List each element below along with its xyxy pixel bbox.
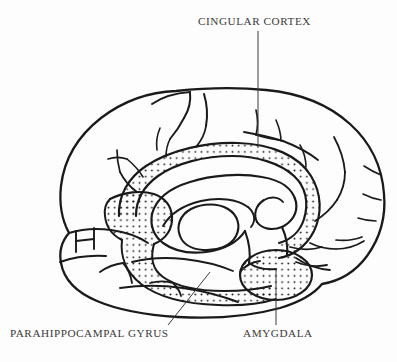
corpus-callosum-splenium-inner (257, 222, 282, 229)
temporal-sulcus-lower (60, 256, 106, 262)
sulcus-occipital-3 (358, 218, 376, 221)
fornix-arch (163, 199, 248, 226)
collateral-sulcus-2 (184, 259, 233, 271)
fold-under-splenium-1 (290, 247, 322, 249)
sulcus-marginal-1 (256, 110, 258, 135)
sulcus-sup-6 (204, 94, 207, 126)
thalamus-outline (178, 205, 238, 251)
corpus-callosum-splenium-outer (282, 202, 296, 227)
label-amygdala: AMYGDALA (243, 328, 313, 339)
sulcus-marginal-3 (244, 132, 283, 141)
sulcus-sup-3 (170, 118, 184, 139)
corpus-callosum-splenium-tip (264, 198, 283, 202)
sulcus-sup-7 (196, 126, 206, 147)
sulcus-sup-5 (157, 128, 160, 150)
sulcus-occipital-2 (363, 194, 381, 200)
corpus-callosum-superior (152, 175, 296, 214)
sulcus-sup-2 (184, 92, 190, 118)
sulcus-parietal-2 (337, 172, 345, 200)
sulcus-parietal-1 (334, 137, 345, 172)
sulcus-frontal-2 (117, 150, 120, 172)
figure-canvas: CINGULAR CORTEX PARAHIPPOCAMPAL GYRUS AM… (0, 0, 397, 362)
label-cingular-cortex: CINGULAR CORTEX (198, 16, 311, 27)
fornix-crus (248, 207, 254, 227)
temporal-mark-h-bar (76, 239, 94, 241)
sulcus-occipital-4 (336, 237, 362, 240)
sulcus-occipital-6 (336, 241, 364, 249)
temporal-mark-y-left (100, 263, 123, 272)
brain-diagram-svg (0, 0, 397, 362)
corpus-callosum-splenium-hook (255, 200, 264, 222)
sulcus-marginal-5 (276, 120, 281, 141)
label-parahippocampal-gyrus: PARAHIPPOCAMPAL GYRUS (10, 328, 169, 339)
